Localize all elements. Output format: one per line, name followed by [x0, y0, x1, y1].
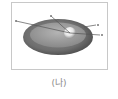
marker-right-lower-icon	[101, 34, 103, 36]
marker-upper-left-icon	[15, 20, 17, 22]
marker-top-icon	[50, 15, 52, 17]
figure-frame	[11, 2, 108, 70]
figure-caption: (나)	[0, 77, 118, 89]
disk-diagram	[12, 3, 109, 71]
marker-right-upper-icon	[97, 24, 99, 26]
